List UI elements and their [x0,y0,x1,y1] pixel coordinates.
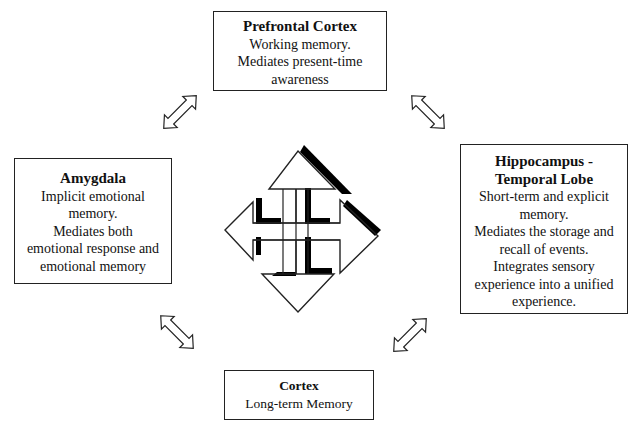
node-text: memory. [461,206,627,224]
node-text: Long-term Memory [225,395,373,413]
node-text: memory. [15,205,171,223]
node-amygdala: Amygdala Implicit emotional memory. Medi… [14,158,172,284]
node-hippocampus-temporal-lobe: Hippocampus - Temporal Lobe Short-term a… [460,144,628,314]
node-title: Prefrontal Cortex [214,18,386,36]
node-title: Amygdala [15,170,171,188]
node-title: Hippocampus - [461,153,627,171]
node-text: Mediates both [15,223,171,241]
node-text: recall of events. [461,241,627,259]
node-text: emotional response and [15,240,171,258]
node-text: Mediates the storage and [461,223,627,241]
node-text: emotional memory [15,258,171,276]
double-arrow-icon [387,312,432,357]
node-text: experience. [461,293,627,311]
node-text: Integrates sensory [461,258,627,276]
node-title: Cortex [225,377,373,395]
node-text: Mediates present-time [214,53,386,71]
double-arrow-icon [154,309,199,354]
node-text: Short-term and explicit [461,188,627,206]
double-arrow-icon [157,89,202,134]
node-cortex: Cortex Long-term Memory [224,370,374,420]
node-prefrontal-cortex: Prefrontal Cortex Working memory. Mediat… [213,11,387,91]
node-text: experience into a unified [461,276,627,294]
node-text: Implicit emotional [15,188,171,206]
four-way-arrow-icon [225,145,381,312]
node-title: Temporal Lobe [461,171,627,189]
double-arrow-icon [405,89,450,134]
node-text: awareness [214,71,386,89]
node-text: Working memory. [214,36,386,54]
